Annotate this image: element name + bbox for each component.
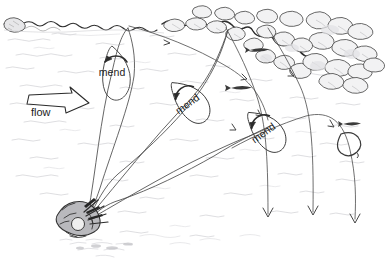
- fly-fishing-mend-illustration: mend mend mend flow: [0, 0, 385, 271]
- illustration-canvas: mend mend mend flow: [0, 0, 385, 271]
- mend-label-1: mend: [99, 66, 126, 78]
- flow-label: flow: [31, 106, 51, 118]
